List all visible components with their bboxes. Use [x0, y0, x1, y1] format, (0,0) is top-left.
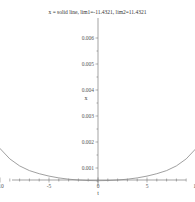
- y-tick-label: 0.002: [82, 139, 95, 145]
- y-tick-label: 0.004: [82, 87, 95, 93]
- x-tick-label: 10: [193, 183, 195, 189]
- x-tick-label: 5: [146, 183, 149, 189]
- x-axis-label: t: [97, 190, 99, 196]
- y-axis-label: x: [85, 95, 88, 101]
- x-tick-label: -10: [0, 183, 4, 189]
- x-tick-label: 0: [97, 183, 100, 189]
- x-tick-label: -5: [47, 183, 52, 189]
- y-tick-label: 0.003: [82, 113, 95, 119]
- data-series-x: [0, 17, 195, 181]
- y-tick-label: 0.006: [82, 35, 95, 41]
- y-tick-label: 0.005: [82, 61, 95, 67]
- line-chart: -10-505100.0010.0020.0030.0040.0050.006t…: [0, 0, 195, 202]
- axes: -10-505100.0010.0020.0030.0040.0050.006t…: [0, 18, 195, 196]
- y-tick-label: 0.001: [82, 165, 95, 171]
